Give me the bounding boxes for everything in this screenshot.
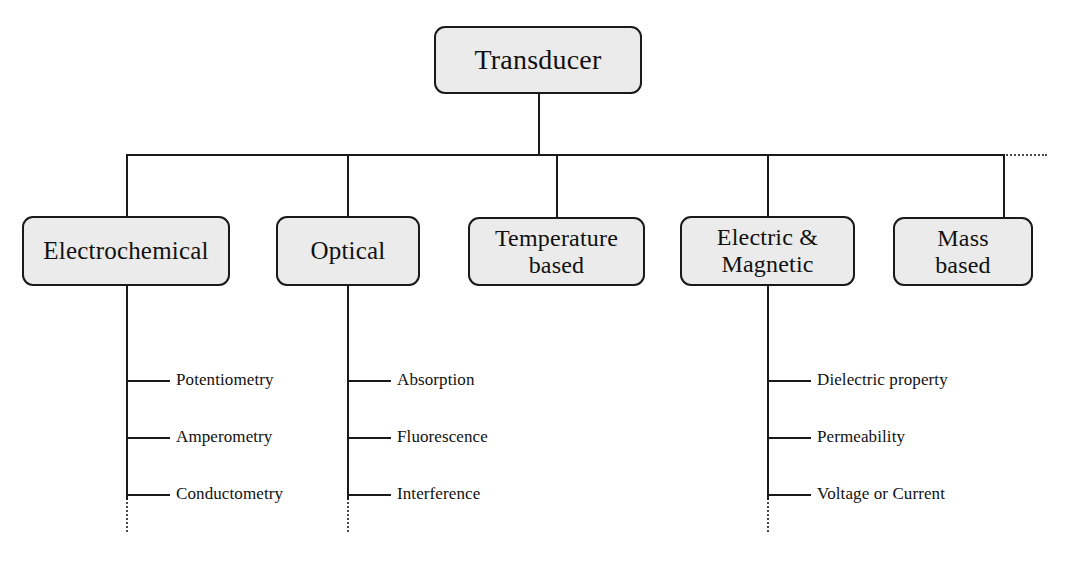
connector-bus-dotted-continuation xyxy=(1003,154,1047,156)
connector-tick-amperometry xyxy=(128,437,170,439)
connector-electrochemical-stem xyxy=(126,286,128,500)
leaf-label-conductometry: Conductometry xyxy=(176,484,283,504)
node-electric-and-magnetic[interactable]: Electric & Magnetic xyxy=(680,216,855,286)
node-electrochemical[interactable]: Electrochemical xyxy=(22,216,230,286)
leaf-label-amperometry: Amperometry xyxy=(176,427,272,447)
connector-horizontal-bus xyxy=(126,154,1003,156)
connector-root-to-bus xyxy=(538,94,540,154)
connector-tick-interference xyxy=(349,494,391,496)
node-label: Electrochemical xyxy=(43,237,208,265)
transducer-classification-diagram: Transducer Electrochemical Optical Tempe… xyxy=(0,0,1067,570)
node-label: Transducer xyxy=(475,44,602,75)
connector-tick-dielectric-property xyxy=(769,380,811,382)
node-transducer-root[interactable]: Transducer xyxy=(434,26,642,94)
leaf-label-permeability: Permeability xyxy=(817,427,905,447)
leaf-label-fluorescence: Fluorescence xyxy=(397,427,488,447)
connector-optical-stem xyxy=(347,286,349,500)
connector-electric-and-magnetic-stem-dotted xyxy=(767,502,769,532)
connector-tick-conductometry xyxy=(128,494,170,496)
connector-bus-to-electrochemical xyxy=(126,154,128,216)
connector-bus-to-optical xyxy=(347,154,349,216)
leaf-label-dielectric-property: Dielectric property xyxy=(817,370,948,390)
leaf-label-absorption: Absorption xyxy=(397,370,475,390)
node-optical[interactable]: Optical xyxy=(276,216,420,286)
connector-bus-to-temperature-based xyxy=(556,154,558,217)
node-label: Mass based xyxy=(935,225,991,279)
connector-tick-fluorescence xyxy=(349,437,391,439)
node-label: Optical xyxy=(311,237,386,265)
leaf-label-voltage-or-current: Voltage or Current xyxy=(817,484,945,504)
connector-tick-voltage-or-current xyxy=(769,494,811,496)
leaf-label-potentiometry: Potentiometry xyxy=(176,370,274,390)
connector-tick-permeability xyxy=(769,437,811,439)
node-label: Temperature based xyxy=(495,225,618,279)
connector-optical-stem-dotted xyxy=(347,502,349,532)
connector-tick-absorption xyxy=(349,380,391,382)
leaf-label-interference: Interference xyxy=(397,484,480,504)
connector-bus-to-mass-based xyxy=(1003,154,1005,217)
connector-bus-to-electric-and-magnetic xyxy=(767,154,769,216)
node-mass-based[interactable]: Mass based xyxy=(893,217,1033,286)
connector-electrochemical-stem-dotted xyxy=(126,502,128,532)
connector-tick-potentiometry xyxy=(128,380,170,382)
connector-electric-and-magnetic-stem xyxy=(767,286,769,500)
node-label: Electric & Magnetic xyxy=(717,224,818,278)
node-temperature-based[interactable]: Temperature based xyxy=(468,217,645,286)
